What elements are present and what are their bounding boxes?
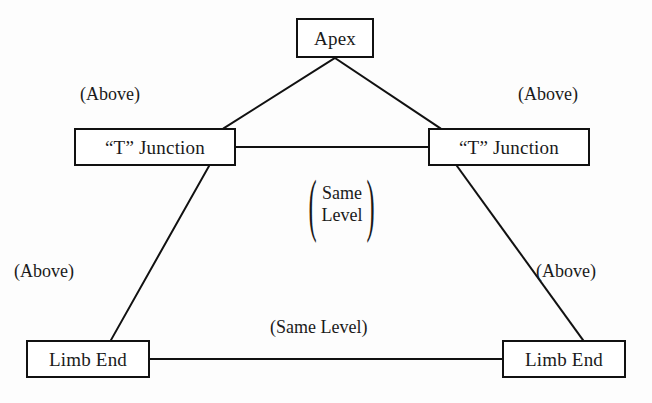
same-level-line-2: Level (322, 205, 363, 227)
node-t-junction-right: “T” Junction (428, 128, 590, 166)
edge-apex-to-left-t-junction (224, 58, 335, 128)
bracket-inner-text: Same Level (319, 183, 366, 227)
node-limb-end-left-label: Limb End (49, 350, 127, 369)
bracket-close-paren: ) (367, 170, 375, 240)
edge-right-t-junction-to-right-limb-end (457, 166, 583, 340)
diagram-canvas: Apex “T” Junction “T” Junction Limb End … (0, 0, 652, 403)
node-limb-end-right: Limb End (502, 340, 626, 378)
bracket-open-paren: ( (309, 170, 317, 240)
edge-label-same-level-bottom: (Same Level) (270, 318, 367, 336)
node-t-junction-left: “T” Junction (74, 128, 236, 166)
node-apex-label: Apex (314, 29, 356, 48)
edge-apex-to-right-t-junction (335, 58, 440, 128)
edge-label-above-bottom-right: (Above) (536, 262, 596, 280)
node-t-junction-right-label: “T” Junction (459, 138, 559, 157)
node-limb-end-right-label: Limb End (525, 350, 603, 369)
node-t-junction-left-label: “T” Junction (105, 138, 205, 157)
edge-label-above-top-left: (Above) (80, 85, 140, 103)
node-apex: Apex (296, 18, 374, 58)
edge-left-t-junction-to-left-limb-end (111, 166, 209, 340)
edge-label-above-top-right: (Above) (518, 85, 578, 103)
node-limb-end-left: Limb End (26, 340, 150, 378)
same-level-line-1: Same (322, 183, 362, 205)
edge-label-above-bottom-left: (Above) (14, 262, 74, 280)
edge-label-same-level-center: ( Same Level ) (296, 176, 388, 234)
